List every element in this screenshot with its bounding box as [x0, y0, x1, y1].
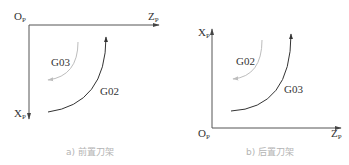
dark-arc-label: G02 [100, 85, 119, 97]
z-axis-label: ZP [148, 10, 159, 24]
x-axis-label: XP [198, 26, 210, 40]
rear-tool-post-diagram: XP OP ZP G02 G03 b) 后置刀架 [198, 26, 342, 157]
light-arc-label: G02 [236, 55, 255, 67]
z-axis-label: ZP [331, 127, 342, 141]
origin-label: OP [14, 10, 26, 24]
light-arc-label: G03 [51, 56, 70, 68]
x-axis-label: XP [14, 107, 26, 121]
dark-arc-label: G03 [284, 83, 303, 95]
dark-arc-g02 [48, 37, 106, 112]
caption: b) 后置刀架 [246, 147, 294, 157]
front-tool-post-diagram: OP ZP XP G03 G02 a) 前置刀架 [14, 10, 159, 157]
dark-arc-g03 [231, 34, 291, 111]
caption: a) 前置刀架 [66, 146, 114, 157]
diagram-canvas: OP ZP XP G03 G02 a) 前置刀架 XP OP ZP G02 G0… [0, 0, 349, 165]
origin-label: OP [198, 127, 210, 141]
